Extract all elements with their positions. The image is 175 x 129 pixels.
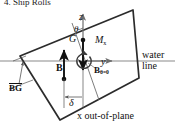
center-of-buoyancy-label: B (56, 63, 63, 73)
out-of-plane-label: x out-of-plane (77, 111, 134, 121)
bg-dimension-arrow (19, 62, 23, 84)
upright-buoyancy-subscript: θ=0 (100, 69, 109, 75)
hull-outline (20, 10, 139, 120)
figure-caption: 4. Ship Rolls (4, 0, 51, 7)
delta-offset-label: δ (69, 98, 74, 108)
moment-subscript: x (103, 39, 106, 46)
ship-hull (20, 10, 139, 120)
waterline-label-line2: line (142, 61, 157, 71)
bg-distance-label: BG (9, 83, 22, 93)
upright-buoyancy-label: Bθ=0 (94, 66, 109, 76)
z-axis-label: z (79, 12, 83, 22)
bg-distance-text: BG (9, 83, 22, 93)
righting-moment-label: Mx (95, 35, 106, 46)
waterline-label-line1: water (142, 50, 164, 60)
center-of-gravity-label: G (69, 34, 76, 44)
center-of-gravity-point (81, 38, 86, 43)
ship-rolls-figure: 4. Ship Rolls (0, 0, 175, 129)
